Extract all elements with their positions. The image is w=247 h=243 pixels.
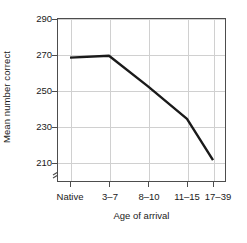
y-tick-label: 230 [24,122,52,132]
x-tick-label: 8–10 [138,191,159,203]
y-axis-title: Mean number correct [0,0,14,197]
line-chart: Mean number correct 290 270 250 230 210 [0,0,247,243]
data-series-line [57,18,226,182]
x-tick-mark [187,182,188,187]
x-axis-tick-labels: Native 3–7 8–10 11–15 17–39 [0,191,247,205]
series-polyline [70,56,213,160]
x-tick-mark [213,182,214,187]
y-axis-tick-labels: 290 270 250 230 210 [22,0,52,243]
x-axis-title: Age of arrival [57,210,226,222]
x-tick-label: 3–7 [102,191,118,203]
x-tick-mark [109,182,110,187]
x-tick-mark [148,182,149,187]
y-tick-label: 270 [24,50,52,60]
x-tick-mark [70,182,71,187]
x-tick-label: 11–15 [174,191,200,203]
x-tick-label: 17–39 [205,191,231,203]
y-tick-label: 210 [24,158,52,168]
y-tick-label: 290 [24,14,52,24]
y-tick-label: 250 [24,86,52,96]
x-tick-label: Native [57,191,84,203]
